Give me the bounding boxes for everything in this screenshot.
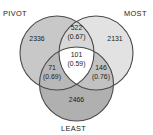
set-label-least: LEAST (61, 124, 86, 133)
count-most-least: 146 (95, 64, 107, 71)
count-pivot-least: 71 (48, 64, 56, 71)
count-least-only: 2466 (69, 96, 84, 103)
set-label-most: MOST (124, 9, 147, 18)
count-pivot-only: 2336 (29, 35, 44, 42)
ratio-most-least: (0.76) (92, 73, 110, 81)
count-most-only: 2131 (107, 35, 122, 42)
ratio-pivot-most: (0.67) (67, 33, 85, 41)
count-all-three: 101 (71, 51, 83, 58)
venn-diagram-canvas: PIVOT MOST LEAST 2336 2131 2466 522 (0.6… (0, 0, 153, 135)
venn-diagram: PIVOT MOST LEAST 2336 2131 2466 522 (0.6… (0, 0, 153, 135)
ratio-all-three: (0.59) (67, 60, 85, 68)
set-label-pivot: PIVOT (3, 9, 27, 18)
ratio-pivot-least: (0.69) (43, 73, 61, 81)
count-pivot-most: 522 (71, 24, 83, 31)
